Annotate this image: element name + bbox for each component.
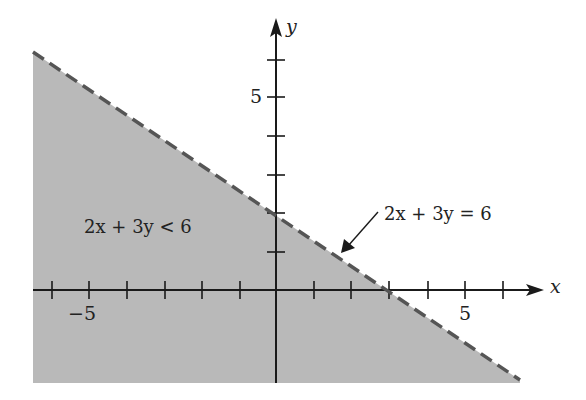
y-tick-label-5: 5 xyxy=(250,85,262,107)
boundary-line-label: 2x + 3y = 6 xyxy=(384,203,492,224)
boundary-label-arrow-icon xyxy=(341,212,378,253)
y-axis-label: y xyxy=(285,15,297,37)
x-axis-label: x xyxy=(550,275,561,297)
region-label: 2x + 3y < 6 xyxy=(84,216,192,237)
x-tick-label-5: 5 xyxy=(459,302,471,324)
inequality-graph: −5 5 5 x y 2x + 3y < 6 2x + 3y = 6 xyxy=(0,0,586,400)
x-tick-label-neg5: −5 xyxy=(68,302,96,324)
